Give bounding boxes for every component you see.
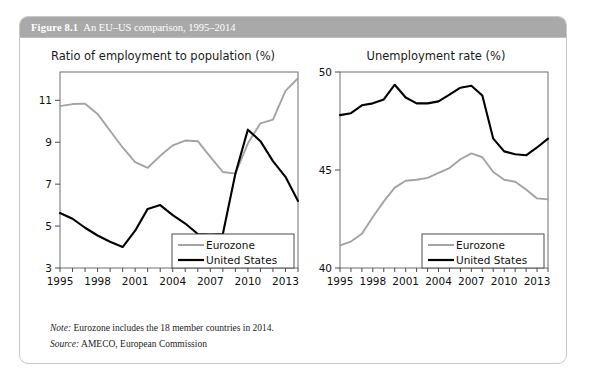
note-label: Note: xyxy=(50,323,71,333)
x-tick-label: 1995 xyxy=(47,275,74,287)
note-text: Eurozone includes the 18 member countrie… xyxy=(73,323,274,333)
y-tick-label: 9 xyxy=(45,136,52,148)
series-line-eurozone xyxy=(340,153,548,245)
chart-panel-employment-ratio: Ratio of employment to population (%) 35… xyxy=(20,38,306,322)
chart-panel-unemployment-rate: Unemployment rate (%) 404550199519982001… xyxy=(306,38,566,322)
legend-label-eurozone: Eurozone xyxy=(206,239,255,251)
legend-label-united-states: United States xyxy=(456,254,527,266)
x-tick-label: 2013 xyxy=(272,275,299,287)
x-tick-label: 2013 xyxy=(524,275,551,287)
source-line: Source: AMECO, European Commission xyxy=(50,339,274,349)
source-label: Source: xyxy=(50,339,79,349)
legend-label-united-states: United States xyxy=(206,254,277,266)
x-tick-label: 2004 xyxy=(159,275,186,287)
x-tick-label: 2001 xyxy=(392,275,419,287)
y-tick-label: 11 xyxy=(39,94,52,106)
y-tick-label: 7 xyxy=(45,178,52,190)
chart-legend: EurozoneUnited States xyxy=(422,234,544,268)
figure-header: Figure 8.1 An EU–US comparison, 1995–201… xyxy=(20,17,566,38)
charts-container: Ratio of employment to population (%) 35… xyxy=(20,38,566,322)
chart-legend: EurozoneUnited States xyxy=(172,234,294,268)
x-tick-label: 2010 xyxy=(491,275,518,287)
note-line: Note: Eurozone includes the 18 member co… xyxy=(50,323,274,333)
footnotes: Note: Eurozone includes the 18 member co… xyxy=(50,323,274,355)
y-tick-label: 5 xyxy=(45,220,52,232)
x-tick-label: 1998 xyxy=(84,275,111,287)
x-tick-label: 1998 xyxy=(359,275,386,287)
y-tick-label: 40 xyxy=(319,262,332,274)
y-tick-label: 45 xyxy=(319,164,332,176)
y-tick-label: 3 xyxy=(45,262,52,274)
figure-number: Figure 8.1 xyxy=(31,22,78,33)
series-line-united-states xyxy=(340,85,548,156)
source-text: AMECO, European Commission xyxy=(81,339,207,349)
y-tick-label: 50 xyxy=(319,66,332,78)
chart-svg-left: 3579111995199820012004200720102013Eurozo… xyxy=(20,38,306,322)
figure-caption: An EU–US comparison, 1995–2014 xyxy=(83,22,235,33)
x-tick-label: 2004 xyxy=(425,275,452,287)
legend-label-eurozone: Eurozone xyxy=(456,239,505,251)
figure-card: Figure 8.1 An EU–US comparison, 1995–201… xyxy=(19,16,567,364)
x-tick-label: 2007 xyxy=(458,275,485,287)
x-tick-label: 1995 xyxy=(327,275,354,287)
x-tick-label: 2007 xyxy=(197,275,224,287)
chart-svg-right: 4045501995199820012004200720102013Eurozo… xyxy=(306,38,566,322)
series-line-united-states xyxy=(60,130,298,247)
x-tick-label: 2010 xyxy=(235,275,262,287)
series-line-eurozone xyxy=(60,78,298,173)
x-tick-label: 2001 xyxy=(122,275,149,287)
